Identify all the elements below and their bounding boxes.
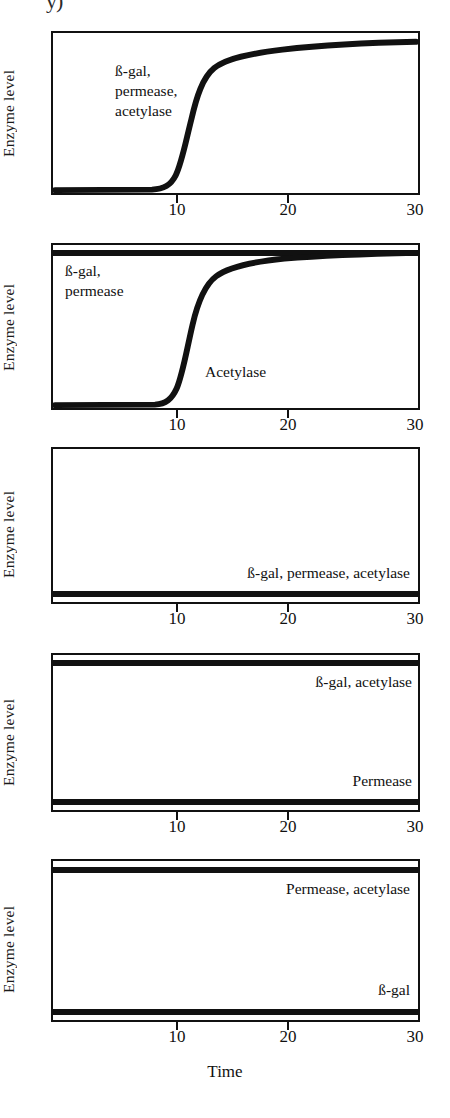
panel-5-y-axis-label: Enzyme level <box>0 884 26 1014</box>
panel-5-x-tick-labels: 10 20 30 <box>51 1027 420 1049</box>
panel-5: Enzyme level Permease, acetylase ß-gal 1… <box>0 840 450 1118</box>
panel-2-annotation-line-2: permease <box>65 281 124 301</box>
panel-3-plot-area: ß-gal, permease, acetylase <box>51 447 420 604</box>
x-tick-label-10: 10 <box>169 1027 186 1047</box>
panel-2-curve-label: Acetylase <box>205 362 266 382</box>
panel-3-y-axis-label: Enzyme level <box>0 469 26 599</box>
panel-1-annotation-line-3: acetylase <box>115 101 177 121</box>
x-tick-label-30: 30 <box>407 609 424 629</box>
panel-1-curve-sigmoid <box>53 33 418 193</box>
panel-4-bottom-label: Permease <box>353 771 412 791</box>
panel-4-y-axis-label: Enzyme level <box>0 677 26 807</box>
panel-5-bottom-label: ß-gal <box>378 980 410 1000</box>
panel-4: Enzyme level ß-gal, acetylase Permease 1… <box>0 635 450 850</box>
panel-3: Enzyme level ß-gal, permease, acetylase … <box>0 425 450 645</box>
x-tick-label-10: 10 <box>169 817 186 837</box>
panel-2-plot-area: ß-gal, permease Acetylase <box>51 243 420 410</box>
panel-1-annotation-line-1: ß-gal, <box>115 61 177 81</box>
panel-5-trace-bgal <box>53 1009 418 1015</box>
panel-2: Enzyme level ß-gal, permease Acetylase 1… <box>0 210 450 435</box>
panel-4-top-label: ß-gal, acetylase <box>316 672 412 692</box>
x-tick-label-20: 20 <box>280 609 297 629</box>
panel-2-annotation-line-1: ß-gal, <box>65 261 124 281</box>
x-tick-label-30: 30 <box>407 1027 424 1047</box>
x-tick-label-10: 10 <box>169 609 186 629</box>
panel-3-trace-all-enzymes <box>53 591 418 597</box>
panel-2-annotation-top: ß-gal, permease <box>65 261 124 301</box>
panel-1-annotation: ß-gal, permease, acetylase <box>115 61 177 120</box>
panel-4-plot-area: ß-gal, acetylase Permease <box>51 653 420 812</box>
x-tick-label-20: 20 <box>280 817 297 837</box>
panel-1-plot-area: ß-gal, permease, acetylase <box>51 31 420 195</box>
panel-5-trace-permease-acetylase <box>53 867 418 873</box>
x-tick-label-20: 20 <box>280 1027 297 1047</box>
panel-2-y-axis-label: Enzyme level <box>0 260 26 395</box>
panel-5-top-label: Permease, acetylase <box>286 879 410 899</box>
panel-4-x-tick-labels: 10 20 30 <box>51 817 420 839</box>
x-axis-title: Time <box>0 1062 450 1082</box>
panel-4-trace-permease <box>53 799 418 805</box>
x-tick-label-30: 30 <box>407 817 424 837</box>
panel-1-annotation-line-2: permease, <box>115 81 177 101</box>
panel-1: Enzyme level ß-gal, permease, acetylase … <box>0 0 450 220</box>
panel-4-trace-bgal-acetylase <box>53 660 418 666</box>
panel-3-x-tick-labels: 10 20 30 <box>51 609 420 631</box>
panel-3-annotation: ß-gal, permease, acetylase <box>247 563 410 583</box>
enzyme-level-figure: y) Enzyme level ß-gal, permease, acetyla… <box>0 0 450 1118</box>
panel-1-y-axis-label: Enzyme level <box>0 48 26 178</box>
panel-5-plot-area: Permease, acetylase ß-gal <box>51 859 420 1022</box>
